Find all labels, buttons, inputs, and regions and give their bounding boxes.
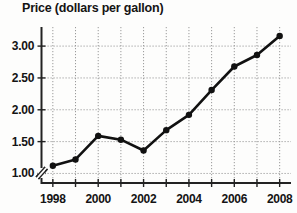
data-point — [254, 52, 260, 58]
y-axis-tick-label: 2.50 — [0, 71, 34, 85]
y-axis-tick-label: 3.00 — [0, 39, 34, 53]
data-point — [50, 163, 56, 169]
y-axis-tick-label: 2.00 — [0, 103, 34, 117]
data-point — [72, 156, 78, 162]
y-axis-tick-label: 1.50 — [0, 135, 34, 149]
x-axis-tick-label: 2008 — [260, 192, 297, 206]
data-point — [118, 137, 124, 143]
x-axis-tick-label: 1998 — [33, 192, 73, 206]
y-axis-tick-label: 1.00 — [0, 166, 34, 180]
data-line — [53, 36, 280, 166]
x-axis-tick-label: 2002 — [124, 192, 164, 206]
data-point — [231, 63, 237, 69]
vertical-gridlines — [53, 27, 280, 183]
data-point — [163, 127, 169, 133]
x-axis-tick-label: 2006 — [214, 192, 254, 206]
data-point — [140, 147, 146, 153]
data-point — [95, 133, 101, 139]
plot-area — [0, 0, 297, 213]
x-axis-tick-label: 2004 — [169, 192, 209, 206]
x-axis-tick-label: 2000 — [78, 192, 118, 206]
data-point — [276, 33, 282, 39]
data-point — [186, 112, 192, 118]
data-point — [208, 87, 214, 93]
line-chart: Price (dollars per gallon) 1.001.502.002… — [0, 0, 297, 213]
